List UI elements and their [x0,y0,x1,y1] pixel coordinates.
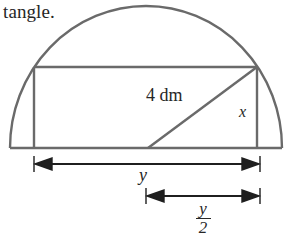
caption-text-fragment: tangle. [3,2,55,21]
fraction-numerator: y [190,201,216,217]
dimension-half-y-arrowhead-right [242,190,259,202]
math-figure: tangle. 4 dm x y y 2 [0,0,292,234]
dimension-y-arrowhead-right [242,158,259,170]
semicircle-arc [10,6,282,148]
fraction-denominator: 2 [190,220,216,234]
height-label-x: x [239,104,246,120]
dimension-half-y-arrowhead-left [147,190,164,202]
half-width-fraction: y 2 [190,201,216,234]
dimension-y [34,156,260,172]
figure-canvas [0,0,292,234]
dimension-y-arrowhead-left [35,158,52,170]
width-label-y: y [139,166,147,184]
hypotenuse-label: 4 dm [146,86,183,104]
